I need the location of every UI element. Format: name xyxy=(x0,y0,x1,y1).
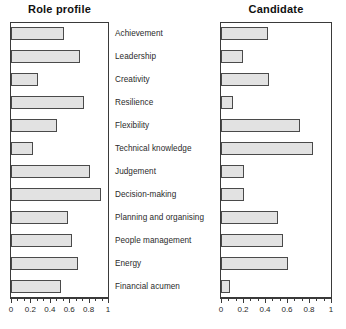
bar-row xyxy=(221,114,331,137)
bar-row xyxy=(221,252,331,275)
role-profile-bar xyxy=(11,119,57,132)
bar-row xyxy=(11,275,108,298)
category-label: Creativity xyxy=(112,75,150,84)
bar-row xyxy=(221,22,331,45)
bar-row xyxy=(11,206,108,229)
category-label: Resilience xyxy=(112,98,153,107)
candidate-bar xyxy=(221,96,233,109)
x-tick-minor xyxy=(272,298,273,301)
role-profile-bar xyxy=(11,280,61,293)
x-tick-label: 0.4 xyxy=(259,305,270,314)
category-label: Technical knowledge xyxy=(112,144,192,153)
bar-row xyxy=(11,183,108,206)
candidate-bar xyxy=(221,211,278,224)
candidate-bar xyxy=(221,165,244,178)
role-profile-bar xyxy=(11,188,101,201)
x-tick-minor xyxy=(236,298,237,301)
x-tick-minor xyxy=(102,298,103,301)
bar-row xyxy=(11,68,108,91)
x-tick-minor xyxy=(43,298,44,301)
x-tick-label: 0.2 xyxy=(237,305,248,314)
category-row: Resilience xyxy=(112,91,218,114)
category-row: Creativity xyxy=(112,68,218,91)
candidate-bar xyxy=(221,27,268,40)
x-tick-major xyxy=(108,298,109,303)
role-profile-bar xyxy=(11,234,72,247)
candidate-bar xyxy=(221,280,230,293)
x-tick-label: 0.4 xyxy=(44,305,55,314)
x-tick-minor xyxy=(316,298,317,301)
bar-row xyxy=(221,206,331,229)
competency-comparison-chart: Role profile Candidate AchievementLeader… xyxy=(0,0,346,329)
x-tick-major xyxy=(50,298,51,303)
x-tick-label: 1 xyxy=(329,305,333,314)
role-profile-bar xyxy=(11,211,68,224)
x-tick-major xyxy=(287,298,288,303)
category-label: Achievement xyxy=(112,29,163,38)
bar-row xyxy=(11,229,108,252)
bar-row xyxy=(221,229,331,252)
bar-row xyxy=(221,91,331,114)
category-row: People management xyxy=(112,229,218,252)
x-tick-label: 0 xyxy=(9,305,13,314)
left-x-ticks xyxy=(11,298,108,303)
candidate-bar xyxy=(221,50,243,63)
x-tick-major xyxy=(89,298,90,303)
bar-row xyxy=(11,22,108,45)
x-tick-major xyxy=(243,298,244,303)
x-tick-major xyxy=(30,298,31,303)
role-profile-bar xyxy=(11,50,80,63)
bar-row xyxy=(221,137,331,160)
right-x-ticks xyxy=(221,298,331,303)
category-row: Planning and organising xyxy=(112,206,218,229)
category-row: Decision-making xyxy=(112,183,218,206)
bar-row xyxy=(221,275,331,298)
x-tick-minor xyxy=(63,298,64,301)
bar-row xyxy=(11,160,108,183)
category-row: Technical knowledge xyxy=(112,137,218,160)
x-tick-minor xyxy=(228,298,229,301)
x-tick-major xyxy=(221,298,222,303)
candidate-bar xyxy=(221,234,283,247)
category-row: Judgement xyxy=(112,160,218,183)
left-x-tick-labels: 00.20.40.60.81 xyxy=(11,305,108,319)
x-tick-minor xyxy=(82,298,83,301)
x-tick-minor xyxy=(56,298,57,301)
category-label: Judgement xyxy=(112,167,156,176)
category-label: Decision-making xyxy=(112,190,176,199)
x-tick-minor xyxy=(280,298,281,301)
x-tick-minor xyxy=(258,298,259,301)
left-panel-title: Role profile xyxy=(11,3,108,15)
x-tick-major xyxy=(265,298,266,303)
category-row: Energy xyxy=(112,252,218,275)
category-row: Achievement xyxy=(112,22,218,45)
right-panel-title: Candidate xyxy=(221,3,331,15)
category-row: Flexibility xyxy=(112,114,218,137)
x-tick-minor xyxy=(24,298,25,301)
x-tick-minor xyxy=(294,298,295,301)
category-label: Leadership xyxy=(112,52,156,61)
right-x-tick-labels: 00.20.40.60.81 xyxy=(221,305,331,319)
category-label: Energy xyxy=(112,259,141,268)
x-tick-minor xyxy=(302,298,303,301)
candidate-bar xyxy=(221,119,300,132)
category-label: Financial acumen xyxy=(112,282,180,291)
candidate-bar xyxy=(221,188,244,201)
bar-row xyxy=(11,252,108,275)
role-profile-bar xyxy=(11,165,90,178)
bar-row xyxy=(11,137,108,160)
category-label: Planning and organising xyxy=(112,213,204,222)
x-tick-major xyxy=(331,298,332,303)
left-bar-group xyxy=(11,22,108,298)
bar-row xyxy=(221,68,331,91)
x-tick-minor xyxy=(76,298,77,301)
role-profile-bar xyxy=(11,96,84,109)
bar-row xyxy=(11,91,108,114)
role-profile-bar xyxy=(11,257,78,270)
x-tick-minor xyxy=(37,298,38,301)
x-tick-label: 0.2 xyxy=(25,305,36,314)
bar-row xyxy=(221,45,331,68)
bar-row xyxy=(221,160,331,183)
x-tick-major xyxy=(11,298,12,303)
x-tick-label: 0.8 xyxy=(303,305,314,314)
